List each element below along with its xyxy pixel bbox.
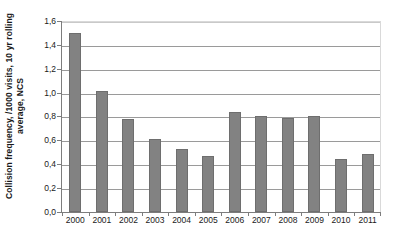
bar-2007[interactable] bbox=[255, 116, 267, 212]
y-tick-label: 1,2 bbox=[36, 64, 56, 74]
x-label-2004: 2004 bbox=[168, 215, 195, 231]
y-tick-label: 0,6 bbox=[36, 135, 56, 145]
x-label-2008: 2008 bbox=[275, 215, 302, 231]
x-label-2010: 2010 bbox=[328, 215, 355, 231]
x-axis-labels: 2000 2001 2002 2003 2004 2005 2006 2007 … bbox=[62, 215, 381, 231]
bar-2003[interactable] bbox=[149, 139, 161, 212]
y-tick-label: 0,2 bbox=[36, 183, 56, 193]
bar-2002[interactable] bbox=[122, 119, 134, 212]
y-tick-0-2: 0,2 bbox=[36, 188, 56, 198]
x-label-2005: 2005 bbox=[195, 215, 222, 231]
bar-2006[interactable] bbox=[229, 112, 241, 212]
bar-2000[interactable] bbox=[69, 33, 81, 212]
bar-slot bbox=[62, 21, 89, 212]
x-label-2009: 2009 bbox=[301, 215, 328, 231]
y-tick-1-6: 1,6 bbox=[36, 21, 56, 31]
x-label-2006: 2006 bbox=[221, 215, 248, 231]
bars-layer bbox=[62, 21, 381, 212]
bar-slot bbox=[354, 21, 381, 212]
bar-slot bbox=[221, 21, 248, 212]
y-tick-1-0: 1,0 bbox=[36, 93, 56, 103]
y-tick-0-4: 0,4 bbox=[36, 164, 56, 174]
bar-slot bbox=[248, 21, 275, 212]
x-label-2007: 2007 bbox=[248, 215, 275, 231]
bar-slot bbox=[275, 21, 302, 212]
bar-slot bbox=[328, 21, 355, 212]
bar-slot bbox=[195, 21, 222, 212]
y-tick-label: 1,4 bbox=[36, 40, 56, 50]
bar-2008[interactable] bbox=[282, 118, 294, 212]
bar-2001[interactable] bbox=[96, 91, 108, 212]
y-axis-title: Collision frequency, /1000 visits, 10 yr… bbox=[0, 0, 30, 212]
bar-2011[interactable] bbox=[362, 154, 374, 212]
bar-2010[interactable] bbox=[335, 159, 347, 212]
bar-2009[interactable] bbox=[308, 116, 320, 212]
bar-slot bbox=[301, 21, 328, 212]
y-tick-label: 0,8 bbox=[36, 111, 56, 121]
bar-slot bbox=[168, 21, 195, 212]
y-tick-label: 1,0 bbox=[36, 88, 56, 98]
y-tick-0-0: 0,0 bbox=[36, 212, 56, 222]
y-tick-0-8: 0,8 bbox=[36, 116, 56, 126]
x-label-2011: 2011 bbox=[354, 215, 381, 231]
bar-2005[interactable] bbox=[202, 156, 214, 212]
bar-2004[interactable] bbox=[176, 149, 188, 212]
y-tick-label: 1,6 bbox=[36, 16, 56, 26]
y-tick-label: 0,0 bbox=[36, 207, 56, 217]
y-tick-0-6: 0,6 bbox=[36, 140, 56, 150]
bar-slot bbox=[115, 21, 142, 212]
y-tick-1-2: 1,2 bbox=[36, 69, 56, 79]
x-label-2002: 2002 bbox=[115, 215, 142, 231]
y-tick-label: 0,4 bbox=[36, 159, 56, 169]
bar-chart: Collision frequency, /1000 visits, 10 yr… bbox=[0, 0, 397, 245]
x-label-2003: 2003 bbox=[142, 215, 169, 231]
bar-slot bbox=[142, 21, 169, 212]
y-tick-1-4: 1,4 bbox=[36, 45, 56, 55]
x-label-2000: 2000 bbox=[62, 215, 89, 231]
bar-slot bbox=[89, 21, 116, 212]
x-label-2001: 2001 bbox=[89, 215, 116, 231]
